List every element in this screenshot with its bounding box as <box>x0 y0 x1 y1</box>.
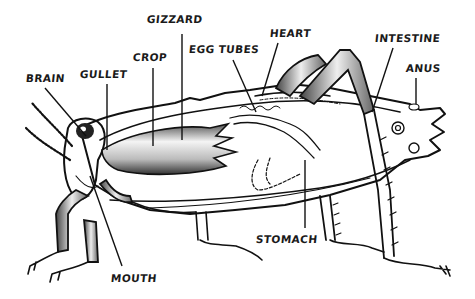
label-crop: CROP <box>132 51 167 63</box>
front-legs <box>28 180 262 282</box>
label-egg-tubes: EGG TUBES <box>188 43 259 55</box>
label-intestine: INTESTINE <box>374 32 440 44</box>
egg-tubes <box>230 92 340 158</box>
label-anus: ANUS <box>405 62 441 74</box>
label-gullet: GULLET <box>79 68 128 80</box>
middle-leg <box>320 196 384 252</box>
intestine-leader <box>372 48 393 112</box>
label-brain: BRAIN <box>25 72 65 84</box>
brain-leader <box>45 88 86 136</box>
label-gizzard: GIZZARD <box>146 13 203 25</box>
crop-gizzard-organ <box>102 124 236 174</box>
label-heart: HEART <box>269 27 311 39</box>
malpighian-tubes <box>252 158 300 190</box>
label-mouth: MOUTH <box>110 272 157 284</box>
label-stomach: STOMACH <box>255 233 318 245</box>
